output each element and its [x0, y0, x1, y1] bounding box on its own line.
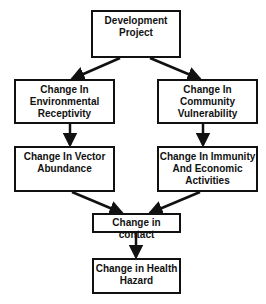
arrow-project-to-environmental [72, 58, 120, 79]
node-text: Project [93, 27, 179, 39]
node-text: And Economic [159, 163, 256, 175]
node-development-project: Development Project [91, 10, 181, 58]
node-text: Change in contact [94, 217, 179, 241]
node-text: Change In [159, 84, 256, 96]
node-contact: Change in contact [92, 213, 181, 233]
node-text: Abundance [16, 163, 113, 175]
node-text: Vulnerability [159, 108, 256, 120]
node-text: Change In Immunity [159, 151, 256, 163]
arrow-project-to-community [150, 58, 200, 79]
node-community-vulnerability: Change In Community Vulnerability [157, 79, 258, 124]
node-text: Change In Vector [16, 151, 113, 163]
node-text: Change In [16, 84, 113, 96]
node-text: Community [159, 96, 256, 108]
node-environmental-receptivity: Change In Environmental Receptivity [14, 79, 115, 124]
node-text: Development [93, 15, 179, 27]
node-health-hazard: Change in Health Hazard [92, 258, 181, 294]
node-text: Activities [159, 175, 256, 187]
node-text: Receptivity [16, 108, 113, 120]
arrow-immunity-to-contact [150, 192, 200, 213]
node-vector-abundance: Change In Vector Abundance [14, 146, 115, 192]
node-text: Change in Health [94, 263, 179, 275]
node-text: Hazard [94, 275, 179, 287]
arrow-vector-to-contact [72, 192, 122, 213]
flowchart: Development Project Change In Environmen… [0, 0, 266, 304]
node-text: Environmental [16, 96, 113, 108]
node-immunity-economic: Change In Immunity And Economic Activiti… [157, 146, 258, 192]
